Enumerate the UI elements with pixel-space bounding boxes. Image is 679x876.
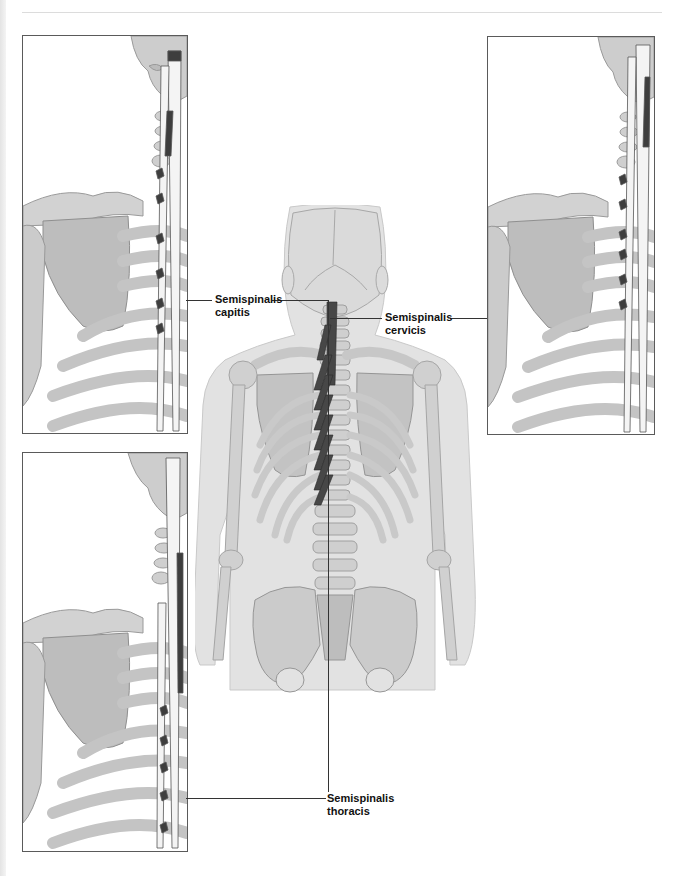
leader-line-cervicis-right [450,318,487,319]
capitis-illustration [23,36,187,433]
label-semispinalis-capitis: Semispinalis capitis [215,293,282,319]
header-rule [22,12,662,13]
leader-line-thoracis-vertical [328,300,329,792]
leader-line-thoracis-left [186,798,326,799]
label-thoracis-line1: Semispinalis [327,792,394,805]
central-body-figure [195,205,480,760]
leader-line-capitis-left [186,300,212,301]
label-semispinalis-cervicis: Semispinalis cervicis [385,311,452,337]
page-edge-strip [0,0,6,876]
cervicis-illustration [488,37,654,434]
detail-panel-capitis [22,35,188,434]
label-thoracis-line2: thoracis [327,805,394,818]
posterior-skeleton-illustration [195,205,480,760]
leader-line-cervicis-left [330,318,382,319]
thoracis-illustration [23,453,187,851]
label-cervicis-line2: cervicis [385,324,452,337]
detail-panel-thoracis [22,452,188,852]
label-capitis-line2: capitis [215,306,282,319]
label-capitis-line1: Semispinalis [215,293,282,306]
detail-panel-cervicis [487,36,655,435]
label-semispinalis-thoracis: Semispinalis thoracis [327,792,394,818]
label-cervicis-line1: Semispinalis [385,311,452,324]
